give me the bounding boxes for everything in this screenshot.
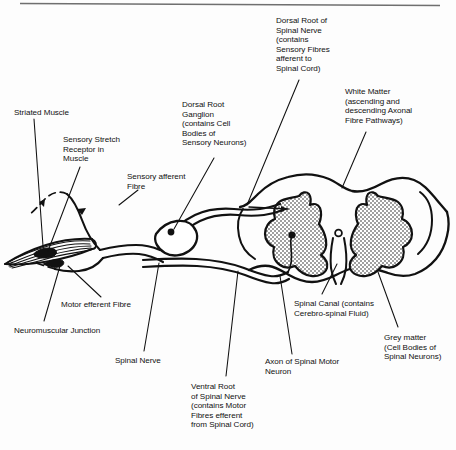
label-motor-efferent-fibre: Motor efferent Fibre bbox=[61, 300, 131, 310]
label-sensory-afferent-fibre: Sensory afferent Fibre bbox=[127, 172, 185, 191]
top-rule bbox=[20, 4, 440, 6]
label-white-matter: White Matter (ascending and descending A… bbox=[345, 87, 412, 125]
label-spinal-canal: Spinal Canal (contains Cerebro-spinal Fl… bbox=[294, 299, 374, 318]
leader-white-matter bbox=[342, 132, 366, 188]
cord-right-notch bbox=[418, 192, 432, 254]
label-grey-matter: Grey matter (Cell Bodies of Spinal Neuro… bbox=[384, 333, 441, 362]
sensory-afferent-dashed bbox=[29, 192, 67, 215]
leader-grey-matter bbox=[378, 272, 398, 327]
label-axon-of-spinal-motor-neuron: Axon of Spinal Motor Neuron bbox=[265, 357, 339, 376]
leader-sensory-afferent bbox=[119, 190, 138, 205]
label-striated-muscle: Striated Muscle bbox=[14, 108, 69, 118]
spinal-canal-lumen bbox=[335, 230, 342, 237]
spinal-nerve-trunk-upper bbox=[100, 245, 160, 250]
leader-striated-muscle bbox=[34, 119, 43, 246]
label-neuromuscular-junction: Neuromuscular Junction bbox=[14, 326, 100, 336]
leader-axon-motor-neuron bbox=[280, 276, 292, 354]
label-dorsal-root-of-spinal-nerve: Dorsal Root of Spinal Nerve (contains Se… bbox=[276, 16, 330, 74]
label-ventral-root-of-spinal-nerve: Ventral Root of Spinal Nerve (contains M… bbox=[191, 382, 254, 430]
figure-page: Dorsal Root of Spinal Nerve (contains Se… bbox=[0, 0, 456, 450]
label-sensory-stretch-receptor: Sensory Stretch Receptor in Muscle bbox=[63, 135, 120, 164]
leader-spinal-nerve bbox=[144, 263, 159, 351]
label-spinal-nerve: Spinal Nerve bbox=[115, 356, 161, 366]
ventral-median-fissure-right bbox=[341, 238, 346, 284]
leader-dorsal-root bbox=[247, 80, 299, 205]
spinal-nerve-trunk-lower bbox=[103, 254, 163, 262]
leader-neuromuscular-junction bbox=[44, 266, 60, 321]
sensory-neuron-cell-body bbox=[168, 229, 175, 236]
label-dorsal-root-ganglion: Dorsal Root Ganglion (contains Cell Bodi… bbox=[182, 100, 246, 148]
leader-ventral-root bbox=[226, 271, 238, 376]
